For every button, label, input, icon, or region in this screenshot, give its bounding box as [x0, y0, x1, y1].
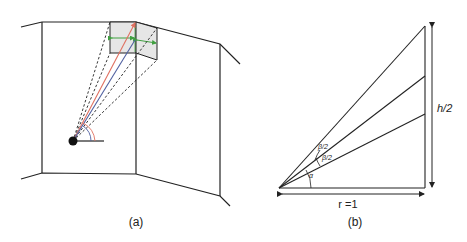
viewer-point	[69, 137, 78, 146]
panel-b-triangle	[279, 26, 425, 188]
label-alpha: α	[309, 172, 314, 179]
caption-b: (b)	[348, 215, 363, 229]
figure: (a) h/2 r =1 α β/2 β/2 (b)	[0, 0, 467, 242]
label-h-half: h/2	[437, 102, 452, 114]
label-beta-lower: β/2	[321, 154, 332, 162]
label-r: r =1	[338, 198, 357, 210]
caption-a: (a)	[129, 215, 144, 229]
panel-a-screen	[110, 22, 157, 60]
label-beta-upper: β/2	[317, 143, 328, 151]
